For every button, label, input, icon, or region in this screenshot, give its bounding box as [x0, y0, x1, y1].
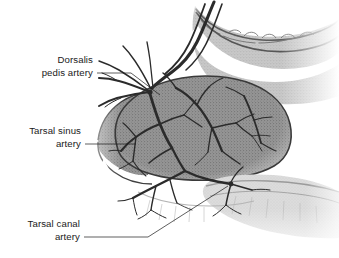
structure-talus-body: [115, 76, 291, 180]
label-line-2: artery: [56, 138, 81, 149]
label-line-2: pedis artery: [42, 67, 93, 78]
label-line-1: Tarsal canal: [28, 218, 80, 229]
label-line-2: artery: [55, 231, 80, 242]
label-line-1: Tarsal sinus: [29, 125, 81, 136]
anatomical-illustration: Dorsalis pedis artery Tarsal sinus arter…: [0, 0, 339, 258]
label-line-1: Dorsalis: [58, 54, 94, 65]
figure-canvas: Dorsalis pedis artery Tarsal sinus arter…: [0, 0, 339, 258]
